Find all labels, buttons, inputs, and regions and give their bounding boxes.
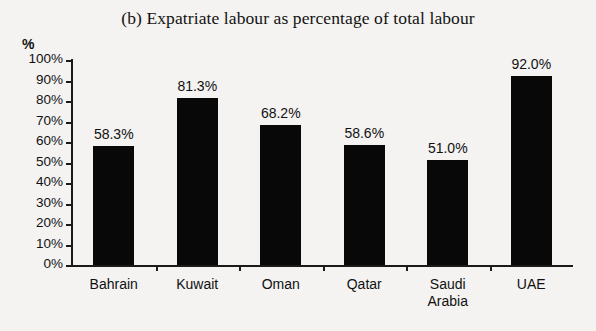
y-tick-label: 80%	[36, 92, 63, 107]
bar-group: 51.0%	[427, 60, 468, 265]
y-tick-label: 20%	[36, 215, 63, 230]
y-tick-label: 60%	[36, 133, 63, 148]
x-tick-mark	[239, 265, 241, 271]
y-axis-unit-label: %	[22, 36, 34, 52]
y-tick-label: 100%	[28, 51, 63, 66]
x-tick-mark	[156, 265, 158, 271]
bar-group: 68.2%	[260, 60, 301, 265]
bar	[260, 125, 301, 265]
x-category-label: Qatar	[323, 276, 407, 293]
bar-value-label: 68.2%	[261, 105, 301, 121]
bar-group: 58.3%	[93, 60, 134, 265]
chart-title: (b) Expatriate labour as percentage of t…	[0, 8, 596, 29]
y-tick-mark	[66, 81, 72, 83]
x-tick-mark	[323, 265, 325, 271]
bar	[344, 145, 385, 265]
bar-value-label: 58.3%	[94, 126, 134, 142]
bar-group: 92.0%	[511, 60, 552, 265]
bar	[93, 146, 134, 266]
chart-figure: (b) Expatriate labour as percentage of t…	[0, 0, 596, 331]
y-tick-label: 0%	[43, 256, 63, 271]
bar-group: 58.6%	[344, 60, 385, 265]
y-tick-label: 10%	[36, 236, 63, 251]
bar-value-label: 81.3%	[177, 78, 217, 94]
y-tick-mark	[66, 224, 72, 226]
y-tick-mark	[66, 204, 72, 206]
bar-value-label: 92.0%	[511, 56, 551, 72]
bar-value-label: 58.6%	[344, 125, 384, 141]
bar	[177, 98, 218, 265]
y-tick-label: 90%	[36, 72, 63, 87]
y-tick-mark	[66, 60, 72, 62]
y-tick-mark	[66, 183, 72, 185]
x-category-label: Saudi Arabia	[406, 276, 490, 310]
bar-group: 81.3%	[177, 60, 218, 265]
y-tick-label: 70%	[36, 113, 63, 128]
y-tick-mark	[66, 245, 72, 247]
y-tick-label: 40%	[36, 174, 63, 189]
x-category-label: Oman	[239, 276, 323, 293]
x-category-label: Kuwait	[156, 276, 240, 293]
y-tick-label: 50%	[36, 154, 63, 169]
bar	[427, 160, 468, 265]
x-category-label: UAE	[490, 276, 574, 293]
x-tick-mark	[406, 265, 408, 271]
y-tick-label: 30%	[36, 195, 63, 210]
bar	[511, 76, 552, 265]
x-tick-mark	[490, 265, 492, 271]
y-tick-mark	[66, 142, 72, 144]
x-category-label: Bahrain	[72, 276, 156, 293]
y-tick-mark	[66, 101, 72, 103]
y-tick-mark	[66, 122, 72, 124]
bar-value-label: 51.0%	[428, 140, 468, 156]
y-tick-mark	[66, 163, 72, 165]
y-tick-mark	[66, 265, 72, 267]
